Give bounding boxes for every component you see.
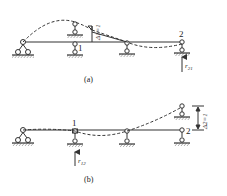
diagram-svg: 1 2 Δ1=1 r21 (a) bbox=[0, 0, 227, 196]
node2-label-a: 2 bbox=[179, 29, 184, 39]
reaction-label-a: r21 bbox=[185, 62, 193, 71]
displacement-marker-a bbox=[88, 26, 92, 42]
deflection-curve-a2 bbox=[92, 30, 182, 48]
structural-diagram: 1 2 Δ1=1 r21 (a) bbox=[0, 0, 227, 196]
displacement-label-b: Δ2=1 bbox=[201, 113, 209, 130]
node2-label-b: 2 bbox=[186, 126, 191, 136]
caption-b: (b) bbox=[84, 175, 94, 184]
displacement-label-a: Δ1=1 bbox=[94, 24, 102, 41]
panel-b bbox=[12, 104, 204, 166]
node1-label-a: 1 bbox=[78, 43, 83, 53]
node1-displaced-support-a bbox=[67, 22, 83, 38]
deflection-curve-b bbox=[23, 108, 180, 136]
caption-a: (a) bbox=[84, 75, 93, 84]
interior-support-a bbox=[119, 41, 135, 57]
node1-label-b: 1 bbox=[72, 118, 77, 128]
interior-support-b bbox=[119, 129, 135, 147]
deflection-curve-a bbox=[23, 20, 92, 42]
node2-displaced-support-b bbox=[174, 104, 190, 120]
reaction-label-b: r12 bbox=[78, 157, 86, 166]
